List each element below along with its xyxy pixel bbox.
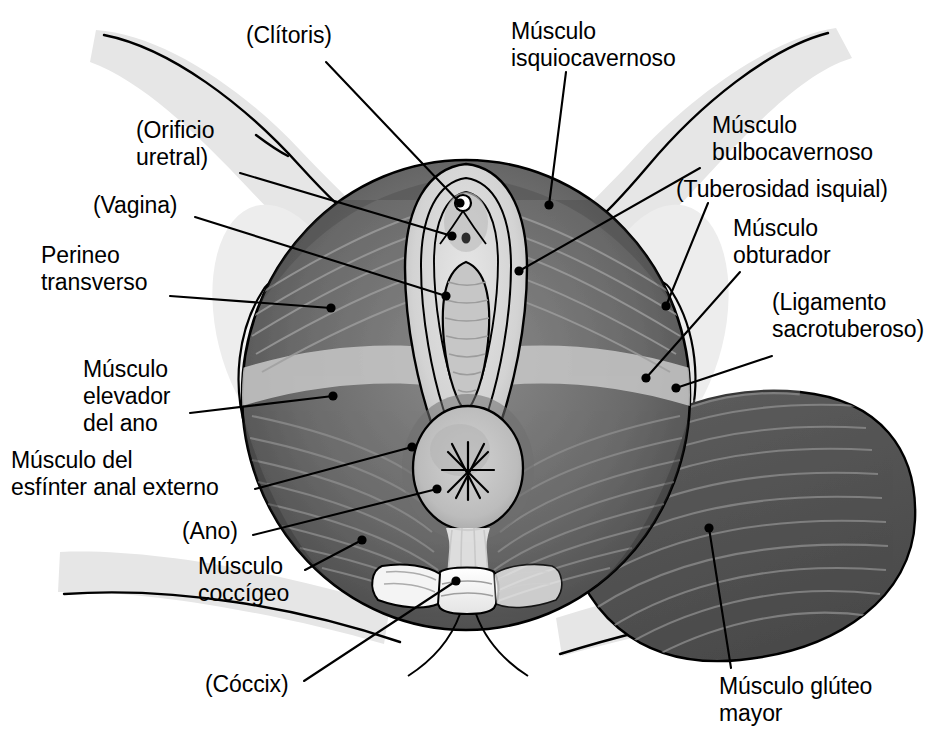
label-ano: (Ano): [182, 518, 238, 545]
label-musculo-esfinter-anal-externo: Músculo del esfínter anal externo: [11, 447, 219, 501]
leader-dot-tuberosidad-isquial: [661, 301, 670, 310]
leader-dot-musculo-circular-gluteo-mayor: [704, 523, 713, 532]
label-musculo-bulbocavernoso: Músculo bulbocavernoso: [712, 112, 873, 166]
label-tuberosidad-isquial: (Tuberosidad isquial): [676, 176, 888, 203]
leader-dot-musculo-obturador: [641, 373, 650, 382]
label-musculo-circular-gluteo-mayor: Músculo glúteo mayor: [719, 673, 872, 727]
label-ligamento-sacrotuberoso: (Ligamento sacrotuberoso): [772, 289, 924, 343]
label-musculo-isquiocavernoso: Músculo isquiocavernoso: [511, 18, 676, 72]
leader-dot-musculo-isquiocavernoso: [544, 200, 553, 209]
leader-dot-ano: [432, 484, 441, 493]
label-vagina: (Vagina): [93, 192, 177, 219]
leader-dot-coccix: [451, 576, 460, 585]
anus-region: [402, 394, 534, 542]
label-perineo-transverso: Perineo transverso: [41, 242, 147, 296]
leader-dot-musculo-esfinter-anal-externo: [407, 442, 416, 451]
label-clitoris: (Clítoris): [246, 22, 332, 49]
anatomy-figure: (Clítoris)Músculo isquiocavernoso(Orific…: [0, 0, 932, 734]
leader-dot-musculo-coccigeo: [357, 535, 366, 544]
leader-dot-orificio-uretral: [447, 231, 456, 240]
label-musculo-coccigeo: Músculo coccígeo: [198, 553, 289, 607]
leader-dot-vagina: [441, 291, 450, 300]
leader-dot-musculo-bulbocavernoso: [514, 266, 523, 275]
leader-dot-ligamento-sacrotuberoso: [671, 383, 680, 392]
label-coccix: (Cóccix): [205, 671, 289, 698]
leader-dot-clitoris: [455, 198, 464, 207]
urethral-orifice: [462, 233, 471, 244]
label-musculo-obturador: Músculo obturador: [733, 215, 831, 269]
label-orificio-uretral: (Orificio uretral): [136, 117, 214, 171]
leader-dot-perineo-transverso: [326, 303, 335, 312]
leader-dot-musculo-elevador-del-ano: [328, 391, 337, 400]
label-musculo-elevador-del-ano: Músculo elevador del ano: [83, 356, 170, 437]
